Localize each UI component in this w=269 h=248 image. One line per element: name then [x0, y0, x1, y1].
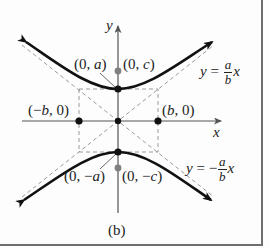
figure-caption: (b): [108, 223, 126, 238]
vertex-bottom-point: [114, 148, 121, 155]
frame-right-border: [261, 0, 263, 246]
vertex-top-point: [114, 85, 121, 92]
asymptote-negative-equation: y = −abx: [186, 155, 234, 183]
y-axis-label: y: [106, 18, 113, 33]
asymptote-positive-equation: y = abx: [200, 58, 240, 86]
upper-branch: [26, 42, 212, 89]
vertex-right-point: [154, 117, 161, 124]
vertex-top-label: (0, a): [74, 57, 107, 72]
focus-top-label: (0, c): [123, 57, 155, 72]
x-axis-label: x: [213, 125, 220, 140]
vertex-right-label: (b, 0): [162, 103, 195, 118]
fraction-a-over-b: ab: [224, 58, 233, 86]
vertex-bottom-label: (0, −a): [64, 169, 105, 184]
fraction-a-over-b: ab: [218, 155, 227, 183]
hyperbola-plot: [0, 0, 269, 248]
focus-top-point: [115, 68, 122, 75]
center-point: [115, 118, 121, 124]
frame-bottom-border: [0, 244, 263, 246]
focus-bottom-label: (0, −c): [122, 169, 162, 184]
vertex-left-point: [75, 117, 82, 124]
leader-line-bottom: [100, 154, 116, 169]
hyperbola-figure: y x (0, a) (0, c) (−b, 0) (b, 0) (0, −a)…: [0, 0, 269, 248]
focus-bottom-point: [115, 165, 122, 172]
vertex-left-label: (−b, 0): [28, 103, 69, 118]
